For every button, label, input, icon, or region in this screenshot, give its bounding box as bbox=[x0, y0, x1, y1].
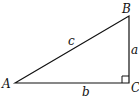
vertex-label-a: A bbox=[1, 77, 11, 91]
side-label-b: b bbox=[82, 85, 90, 99]
side-label-a: a bbox=[131, 43, 138, 57]
side-label-c: c bbox=[68, 34, 75, 48]
vertex-label-c: C bbox=[131, 81, 139, 95]
vertex-label-b: B bbox=[121, 2, 131, 16]
right-angle-marker bbox=[122, 76, 129, 83]
right-triangle-diagram: A B C c a b bbox=[0, 0, 139, 100]
triangle-outline bbox=[15, 16, 129, 83]
